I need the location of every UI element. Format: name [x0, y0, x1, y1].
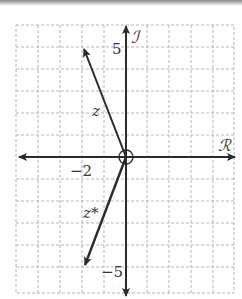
y-tick-label-top: 5: [112, 40, 122, 58]
y-tick-label-bottom: −5: [101, 263, 123, 281]
complex-plane-diagram: ℐ ℛ 5 −5 −2 z z*: [0, 0, 242, 299]
imag-axis-label: ℐ: [131, 27, 142, 47]
x-tick-label-left: −2: [70, 162, 92, 180]
vector-z-label: z: [91, 102, 100, 120]
vector-z: [84, 49, 126, 157]
real-axis-label: ℛ: [218, 136, 232, 155]
vector-z-conjugate-label: z*: [82, 204, 99, 222]
